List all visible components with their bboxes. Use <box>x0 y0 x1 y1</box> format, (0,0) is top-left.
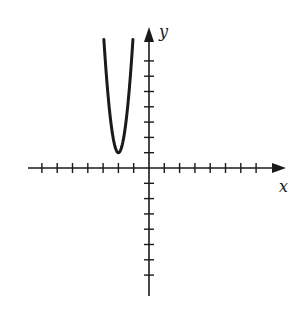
parabola-curve <box>104 39 133 152</box>
y-axis <box>144 27 154 296</box>
coordinate-plane: y x <box>0 0 304 309</box>
y-axis-arrowhead-icon <box>144 27 154 42</box>
x-axis-arrowhead-icon <box>272 163 286 173</box>
x-axis-label: x <box>279 177 288 196</box>
x-axis <box>28 163 286 173</box>
y-axis-label: y <box>158 22 169 41</box>
